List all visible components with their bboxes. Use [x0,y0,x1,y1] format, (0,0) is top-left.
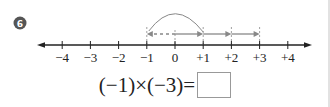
tick-label: +4 [281,50,295,65]
problem-number-badge: 6 [14,17,27,30]
step-arrow-head [254,31,260,37]
tick-label: −1 [140,50,154,65]
number-line: 6 −4−3−2−10+1+2+3+4 [0,0,330,70]
axis-arrow-right [304,42,312,48]
tick-label: +3 [253,50,267,65]
tick-label: 0 [172,50,179,65]
reflection-arc [149,14,203,32]
tick-label: −2 [112,50,126,65]
equation-expression: (−1)×(−3)= [99,73,195,98]
axis-arrow-left [37,42,45,48]
badge-number: 6 [17,19,23,29]
answer-box[interactable] [197,72,231,98]
tick-label: −4 [55,50,69,65]
step-arrow-head [197,31,203,37]
tick-label: +1 [196,50,210,65]
step-arrow-head [225,31,231,37]
tick-label: −3 [83,50,97,65]
tick-label: +2 [224,50,238,65]
equation: (−1)×(−3)= [0,68,330,102]
dashed-arrow-head [147,31,153,37]
